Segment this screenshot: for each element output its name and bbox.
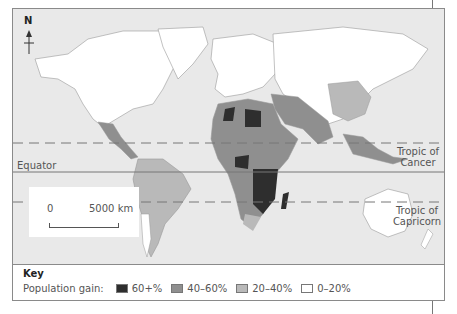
key-swatch-20-40 <box>236 284 248 293</box>
region-europe <box>211 34 283 97</box>
tropic-of-capricorn-label: Tropic of Capricorn <box>391 205 443 227</box>
key-title: Key <box>23 268 44 279</box>
tropic-of-cancer-label-line2: Cancer <box>393 157 443 168</box>
scale-end-label: 5000 km <box>89 203 133 214</box>
tropic-of-cancer-label-line1: Tropic of <box>393 146 443 157</box>
key-swatch-60-plus <box>116 284 128 293</box>
key-item-40-60: 40–60% <box>171 283 227 294</box>
key-swatch-40-60 <box>171 284 183 293</box>
key-item-0-20: 0–20% <box>301 283 351 294</box>
north-arrow-head <box>26 30 32 37</box>
region-madagascar <box>281 192 289 209</box>
key-row: Population gain: 60+% 40–60% 20–40% 0–20… <box>23 283 360 294</box>
region-africa-south <box>243 214 261 231</box>
region-new-zealand <box>421 229 433 249</box>
key-label: Population gain: <box>23 283 104 294</box>
key-item-label: 60+% <box>132 283 163 294</box>
region-africa-dark-nigeria <box>235 155 249 169</box>
key-item-label: 40–60% <box>187 283 227 294</box>
guide-line-bottom <box>432 300 433 314</box>
world-map: N Tropic of Cancer Equator Tropic of Cap… <box>13 9 444 265</box>
scale-start-label: 0 <box>47 203 53 214</box>
key-item-label: 0–20% <box>317 283 351 294</box>
tropic-of-capricorn-label-line2: Capricorn <box>391 216 443 227</box>
north-label: N <box>24 15 32 26</box>
region-south-america <box>133 159 191 257</box>
region-africa-dark-libya <box>245 109 261 127</box>
key-item-20-40: 20–40% <box>236 283 292 294</box>
region-central-america <box>98 122 138 159</box>
scale-bar: 0 5000 km <box>29 187 139 237</box>
key-item-label: 20–40% <box>252 283 292 294</box>
equator-label: Equator <box>17 160 56 171</box>
tropic-of-capricorn-label-line1: Tropic of <box>391 205 443 216</box>
region-africa-dark-central <box>253 169 278 214</box>
scale-bar-line <box>49 223 119 228</box>
tropic-of-cancer-label: Tropic of Cancer <box>393 146 443 168</box>
figure-frame: N Tropic of Cancer Equator Tropic of Cap… <box>12 8 445 301</box>
key-item-60-plus: 60+% <box>116 283 163 294</box>
key-swatch-0-20 <box>301 284 313 293</box>
map-key: Key Population gain: 60+% 40–60% 20–40% … <box>13 265 444 300</box>
